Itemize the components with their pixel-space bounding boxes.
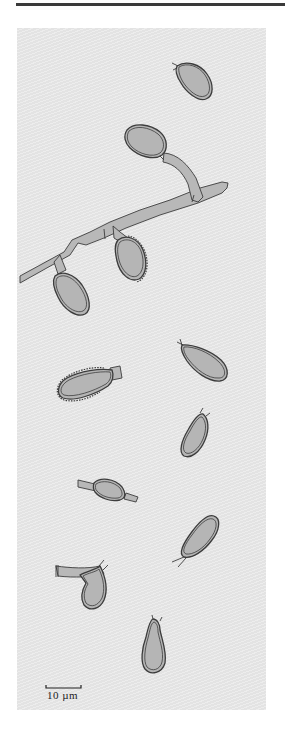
- spore-1: [172, 63, 212, 100]
- spore-8: [172, 516, 219, 567]
- spore-7: [78, 479, 138, 502]
- spore-9: [56, 560, 108, 609]
- spore-attached-2: [113, 226, 147, 282]
- scale-bar-label: 10 µm: [47, 689, 78, 701]
- spore-4: [177, 339, 227, 381]
- spore-5: [57, 366, 122, 401]
- scale-bar: [46, 685, 81, 688]
- spore-illustration: .outer { fill: #b5b5b5; stroke: #3c3c3c;…: [0, 0, 285, 738]
- spore-6: [181, 408, 210, 457]
- spore-attached-3: [54, 255, 90, 315]
- spore-10: [142, 615, 165, 673]
